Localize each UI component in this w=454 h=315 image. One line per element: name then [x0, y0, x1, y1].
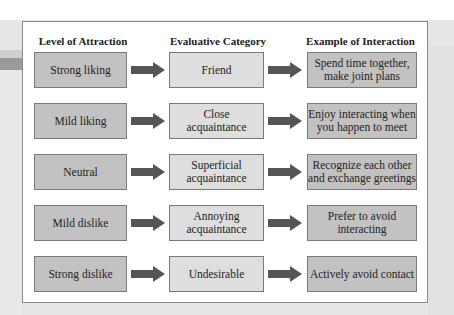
example-box: Actively avoid contact [307, 256, 417, 292]
arrow-icon [131, 164, 165, 180]
example-box: Prefer to avoid interacting [307, 205, 417, 241]
category-box: Friend [169, 52, 264, 88]
arrow-icon [268, 266, 302, 282]
arrow-icon [131, 215, 165, 231]
arrow-icon [131, 266, 165, 282]
arrow-icon [131, 113, 165, 129]
level-box: Neutral [34, 154, 127, 190]
category-box: Superficial acquaintance [169, 154, 264, 190]
category-box: Undesirable [169, 256, 264, 292]
arrow-icon [268, 62, 302, 78]
header-level: Level of Attraction [33, 35, 133, 47]
header-category: Evaluative Category [168, 35, 268, 47]
diagram-panel: Level of Attraction Evaluative Category … [22, 21, 428, 303]
top-margin [0, 0, 454, 20]
level-box: Strong dislike [34, 256, 127, 292]
category-box: Close acquaintance [169, 103, 264, 139]
level-box: Strong liking [34, 52, 127, 88]
arrow-icon [268, 113, 302, 129]
arrow-icon [268, 164, 302, 180]
example-box: Recognize each other and exchange greeti… [307, 154, 417, 190]
level-box: Mild liking [34, 103, 127, 139]
left-accent-band [0, 50, 24, 58]
example-box: Spend time together, make joint plans [307, 52, 417, 88]
level-box: Mild dislike [34, 205, 127, 241]
example-box: Enjoy interacting when you happen to mee… [307, 103, 417, 139]
arrow-icon [268, 215, 302, 231]
left-accent-band-dark [0, 58, 24, 70]
left-background [0, 70, 22, 315]
category-box: Annoying acquaintance [169, 205, 264, 241]
header-example: Example of Interaction [303, 35, 418, 47]
arrow-icon [131, 62, 165, 78]
right-background [428, 45, 454, 315]
